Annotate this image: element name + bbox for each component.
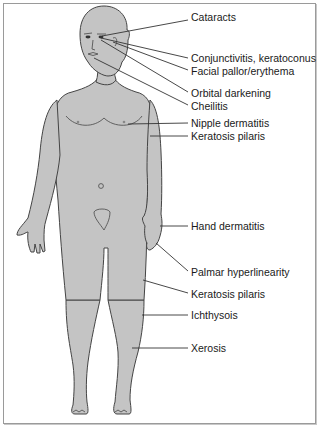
label-orbital-darkening: Orbital darkening bbox=[191, 87, 271, 99]
label-cheilitis: Cheilitis bbox=[191, 100, 228, 112]
label-nipple-dermatitis: Nipple dermatitis bbox=[191, 117, 269, 129]
label-ichthysois: Ichthysois bbox=[191, 309, 238, 321]
human-body-silhouette bbox=[17, 6, 162, 414]
label-xerosis: Xerosis bbox=[191, 342, 226, 354]
label-keratosis-pilaris-lower: Keratosis pilaris bbox=[191, 288, 265, 300]
label-facial-pallor-erythema: Facial pallor/erythema bbox=[191, 65, 294, 77]
label-palmar-hyperlinearity: Palmar hyperlinearity bbox=[191, 266, 290, 278]
label-keratosis-pilaris-upper: Keratosis pilaris bbox=[191, 130, 265, 142]
label-cataracts: Cataracts bbox=[191, 11, 236, 23]
label-hand-dermatitis: Hand dermatitis bbox=[191, 220, 265, 232]
label-conjunctivitis-keratoconus: Conjunctivitis, keratoconus bbox=[191, 52, 316, 64]
